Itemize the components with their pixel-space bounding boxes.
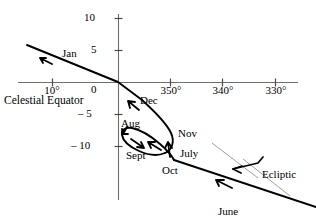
ecliptic-callout-head	[233, 166, 242, 173]
y-tick-label-0: 0	[91, 84, 97, 95]
x-tick-label-350: 350°	[161, 85, 182, 96]
chart-canvas	[0, 0, 316, 223]
month-label-dec: Dec	[140, 95, 158, 106]
arrow-june	[216, 180, 232, 188]
month-label-aug: Aug	[121, 118, 140, 129]
x-tick-label-330: 330°	[266, 85, 287, 96]
month-label-july: July	[180, 148, 198, 159]
month-label-nov: Nov	[178, 128, 197, 139]
y-tick-label-5: 5	[91, 44, 97, 55]
arrow-sept	[131, 139, 144, 148]
month-label-sept: Sept	[126, 150, 146, 161]
arrow-dec	[128, 101, 139, 110]
celestial-equator-label: Celestial Equator	[4, 95, 84, 107]
retrograde-motion-chart: 10 5 0 – 5 – 10 10° 350° 340° 330° Celes…	[0, 0, 316, 223]
x-tick-label-340: 340°	[213, 85, 234, 96]
ecliptic-label: Ecliptic	[262, 169, 296, 180]
axis-lines	[18, 14, 298, 200]
arrow-jan	[40, 58, 52, 64]
y-tick-label-minus5: – 5	[78, 108, 92, 119]
month-label-jan: Jan	[62, 48, 77, 59]
ecliptic-guide-line-upper	[212, 143, 258, 178]
month-label-oct: Oct	[162, 165, 178, 176]
month-label-june: June	[218, 206, 238, 217]
y-tick-label-10: 10	[84, 12, 95, 23]
y-tick-label-minus10: – 10	[71, 140, 90, 151]
